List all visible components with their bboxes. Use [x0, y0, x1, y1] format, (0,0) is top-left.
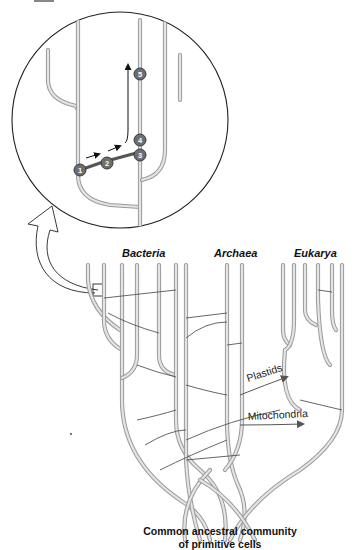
step-marker-5: 5 — [134, 68, 146, 80]
tree-branches — [88, 265, 342, 540]
root-label-line1: Common ancestral community — [143, 525, 297, 537]
svg-text:5: 5 — [138, 70, 142, 79]
svg-text:1: 1 — [78, 166, 82, 175]
inset-circle — [12, 12, 228, 228]
step-marker-2: 2 — [101, 157, 113, 169]
stray-dot — [70, 433, 72, 435]
domain-label-eukarya: Eukarya — [294, 247, 337, 259]
step-marker-4: 4 — [134, 134, 146, 146]
step-marker-1: 1 — [74, 164, 86, 176]
svg-text:3: 3 — [138, 151, 142, 160]
root-label-line2: of primitive cells — [179, 538, 262, 550]
mitochondria-arrow — [240, 424, 303, 425]
svg-text:2: 2 — [105, 159, 109, 168]
step-marker-3: 3 — [134, 149, 146, 161]
domain-label-bacteria: Bacteria — [122, 247, 165, 259]
header-bar — [34, 0, 54, 2]
domain-label-archaea: Archaea — [213, 247, 257, 259]
inset-magnifier: 1 2 3 4 5 — [12, 12, 228, 240]
mitochondria-label: Mitochondria — [247, 407, 308, 422]
tree-of-life-diagram: 1 2 3 4 5 Bacteria Archaea Eukarya — [0, 0, 363, 550]
